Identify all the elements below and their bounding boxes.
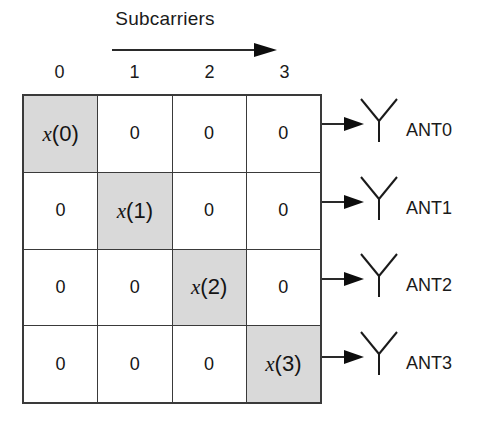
grid-cell-r0-c0[interactable]: x(0) [24, 96, 97, 172]
figure-canvas: Subcarriers 0 1 2 3 x(0) 0 0 0 0 x(1) 0 … [0, 0, 490, 423]
cell-symbol: x(0) [43, 121, 79, 147]
antenna-icon [358, 96, 400, 144]
subcarrier-allocation-grid: x(0) 0 0 0 0 x(1) 0 0 0 0 x(2) 0 0 0 0 [22, 94, 322, 404]
antenna-icon [358, 329, 400, 377]
antenna-icon [358, 251, 400, 299]
column-header-0: 0 [22, 62, 97, 83]
grid-cell-r1-c2[interactable]: 0 [172, 173, 246, 249]
grid-row: 0 0 0 x(3) [24, 325, 320, 402]
grid-cell-r3-c0[interactable]: 0 [24, 326, 97, 402]
column-header-3: 3 [247, 62, 322, 83]
grid-row: 0 x(1) 0 0 [24, 172, 320, 249]
antenna-label-2: ANT2 [406, 275, 452, 296]
antenna-label-3: ANT3 [406, 353, 452, 374]
cell-symbol: x(1) [117, 198, 153, 224]
grid-cell-r2-c2[interactable]: x(2) [172, 250, 246, 326]
antenna-column: ANT0 ANT1 [322, 94, 490, 404]
antenna-label-1: ANT1 [406, 198, 452, 219]
grid-cell-r2-c0[interactable]: 0 [24, 250, 97, 326]
antenna-row-3: ANT3 [322, 327, 490, 405]
column-header-1: 1 [97, 62, 172, 83]
grid-cell-r3-c1[interactable]: 0 [97, 326, 171, 402]
grid-cell-r3-c2[interactable]: 0 [172, 326, 246, 402]
cell-symbol: x(3) [265, 351, 301, 377]
grid-cell-r0-c1[interactable]: 0 [97, 96, 171, 172]
column-header-2: 2 [172, 62, 247, 83]
subcarrier-direction-arrow-icon [112, 42, 277, 58]
grid-cell-r2-c3[interactable]: 0 [246, 250, 320, 326]
antenna-row-2: ANT2 [322, 249, 490, 327]
antenna-label-0: ANT0 [406, 120, 452, 141]
antenna-row-0: ANT0 [322, 94, 490, 172]
grid-cell-r1-c3[interactable]: 0 [246, 173, 320, 249]
antenna-row-1: ANT1 [322, 172, 490, 250]
antenna-icon [358, 174, 400, 222]
grid-row: 0 0 x(2) 0 [24, 249, 320, 326]
column-header-row: 0 1 2 3 [22, 62, 322, 83]
grid-cell-r0-c3[interactable]: 0 [246, 96, 320, 172]
grid-cell-r1-c1[interactable]: x(1) [97, 173, 171, 249]
grid-cell-r1-c0[interactable]: 0 [24, 173, 97, 249]
grid-row: x(0) 0 0 0 [24, 96, 320, 172]
grid-cell-r2-c1[interactable]: 0 [97, 250, 171, 326]
cell-symbol: x(2) [191, 274, 227, 300]
grid-cell-r3-c3[interactable]: x(3) [246, 326, 320, 402]
figure-title: Subcarriers [0, 8, 330, 30]
grid-cell-r0-c2[interactable]: 0 [172, 96, 246, 172]
